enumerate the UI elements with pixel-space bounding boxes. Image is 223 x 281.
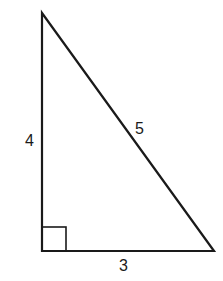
right-angle-marker <box>42 227 66 251</box>
side-label-vertical: 4 <box>25 132 34 149</box>
right-triangle-diagram: 4 5 3 <box>0 0 223 281</box>
side-label-hypotenuse: 5 <box>135 120 144 137</box>
side-label-base: 3 <box>119 257 128 274</box>
triangle <box>42 13 214 251</box>
